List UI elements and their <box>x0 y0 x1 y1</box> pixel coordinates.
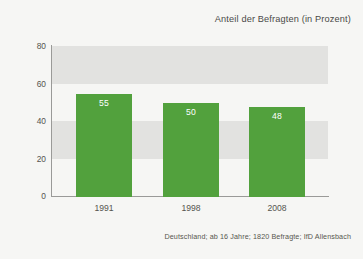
bar-1991: 55 <box>76 94 132 197</box>
bar-value-1991: 55 <box>76 98 132 108</box>
y-tick-label-60: 60 <box>37 79 46 89</box>
y-axis-line <box>51 45 52 197</box>
chart-title: Anteil der Befragten (in Prozent) <box>215 14 351 24</box>
x-tick-label-2008: 2008 <box>249 203 305 213</box>
y-tick-label-20: 20 <box>37 154 46 164</box>
bar-value-1998: 50 <box>163 107 219 117</box>
y-tick-label-0: 0 <box>41 191 46 201</box>
x-tick-label-1998: 1998 <box>163 203 219 213</box>
bar-value-2008: 48 <box>249 111 305 121</box>
background-band-upper <box>52 46 328 84</box>
bar-2008: 48 <box>249 107 305 197</box>
x-tick-label-1991: 1991 <box>76 203 132 213</box>
y-tick-label-80: 80 <box>37 41 46 51</box>
y-axis-tick-labels: 80 60 40 20 0 <box>20 0 46 259</box>
bar-1998: 50 <box>163 103 219 197</box>
y-tick-label-40: 40 <box>37 116 46 126</box>
bar-chart-figure: Anteil der Befragten (in Prozent) 80 60 … <box>0 0 363 259</box>
chart-source-note: Deutschland; ab 16 Jahre; 1820 Befragte;… <box>164 232 351 241</box>
